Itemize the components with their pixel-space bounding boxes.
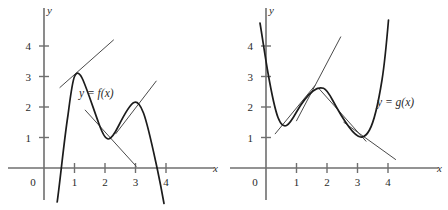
x-tick-label-4-right: 4	[385, 176, 391, 188]
y-tick-label-2-right: 2	[248, 101, 254, 113]
chart-svg-right: 0 1 2 3 4 1 2 3 4 y x y = g(x)	[224, 0, 448, 210]
y-tick-label-1-left: 1	[26, 132, 32, 144]
y-axis-label-left: y	[46, 4, 52, 16]
y-axis-label-right: y	[268, 4, 274, 16]
y-tick-label-3-left: 3	[26, 71, 32, 83]
x-tick-label-2-left: 2	[102, 176, 108, 188]
tangent-line-left-peak2	[116, 81, 157, 134]
x-tick-label-0-right: 0	[252, 176, 258, 188]
tangent-line-right-min1	[275, 86, 315, 134]
x-axis-label-left: x	[212, 162, 218, 174]
curve-label-g: y = g(x)	[376, 96, 414, 109]
x-tick-label-1-right: 1	[294, 176, 300, 188]
y-tick-label-4-left: 4	[26, 40, 32, 52]
chart-panel-right: 0 1 2 3 4 1 2 3 4 y x y = g(x)	[224, 0, 448, 210]
curve-label-f: y = f(x)	[78, 87, 114, 100]
y-tick-label-1-right: 1	[248, 132, 254, 144]
curve-g-right	[260, 20, 389, 137]
x-tick-label-4-left: 4	[163, 176, 169, 188]
x-axis-label-right: x	[436, 162, 442, 174]
x-tick-label-2-right: 2	[324, 176, 330, 188]
x-tick-label-1-left: 1	[72, 176, 78, 188]
tangent-line-right-max	[297, 37, 341, 121]
x-tick-label-0-left: 0	[30, 176, 36, 188]
chart-svg-left: 0 1 2 3 4 1 2 3 4 y x y = f(x)	[0, 0, 224, 210]
y-tick-label-4-right: 4	[248, 40, 254, 52]
x-tick-label-3-left: 3	[133, 176, 139, 188]
y-tick-label-2-left: 2	[26, 101, 32, 113]
figure-container: 0 1 2 3 4 1 2 3 4 y x y = f(x)	[0, 0, 448, 210]
y-tick-label-3-right: 3	[248, 71, 254, 83]
tangent-line-left-peak1	[60, 40, 114, 88]
x-tick-label-3-right: 3	[355, 176, 361, 188]
chart-panel-left: 0 1 2 3 4 1 2 3 4 y x y = f(x)	[0, 0, 224, 210]
